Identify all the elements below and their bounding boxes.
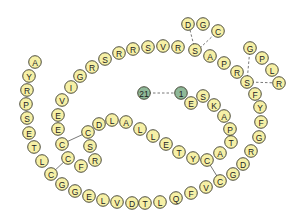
residue-label: G — [247, 44, 254, 54]
residue: S — [241, 76, 254, 89]
residue: L — [106, 114, 119, 127]
residue: A — [29, 56, 42, 69]
residue-label: A — [207, 52, 213, 62]
residue-label: A — [221, 112, 227, 122]
residue: T — [225, 136, 238, 149]
branch-right-residue: P — [256, 52, 269, 65]
residue-label: S — [24, 114, 30, 124]
residue: C — [214, 175, 227, 188]
residue: C — [56, 138, 69, 151]
residue: R — [231, 66, 244, 79]
residue-label: K — [211, 101, 217, 111]
residue-label: G — [230, 170, 237, 180]
residue-label: S — [145, 43, 151, 53]
residue-label: R — [24, 86, 30, 96]
residue-label: Y — [190, 154, 196, 164]
residue: R — [86, 61, 99, 74]
residue: I — [65, 81, 78, 94]
residue-label: D — [96, 120, 102, 130]
residue-label: E — [163, 140, 169, 150]
residue-label: T — [31, 143, 36, 153]
residue-label: F — [78, 162, 83, 172]
residue-label: L — [158, 198, 163, 208]
residue-label: C — [85, 128, 91, 138]
branch-top-residue: C — [212, 25, 225, 38]
residue: A — [120, 116, 133, 129]
residue: Y — [187, 152, 200, 165]
residue-label: D — [129, 199, 135, 209]
residue: A — [218, 110, 231, 123]
residue-label: R — [248, 147, 254, 157]
residue-label: Y — [257, 103, 263, 113]
residue: F — [255, 116, 268, 129]
residue-label: G — [59, 180, 66, 190]
residue: L — [134, 123, 147, 136]
residue-label: C — [48, 170, 54, 180]
residue: V — [157, 40, 170, 53]
residue-label: C — [204, 156, 210, 166]
residue: V — [56, 94, 69, 107]
branch-top-residue: G — [197, 18, 210, 31]
residue-label: C — [65, 154, 71, 164]
residue-label: L — [270, 66, 275, 76]
residue-label: E — [55, 125, 61, 135]
residue: R — [127, 43, 140, 56]
residue-label: C — [59, 140, 65, 150]
residue-label: S — [102, 55, 108, 65]
residue: R — [21, 84, 34, 97]
terminal-node: 1 — [175, 87, 188, 100]
residue: V — [111, 196, 124, 209]
residue: S — [189, 44, 202, 57]
residue: F — [249, 88, 262, 101]
residue: S — [142, 41, 155, 54]
residue-label: P — [227, 125, 233, 135]
branch-right-residue: L — [266, 64, 279, 77]
branch-right-residue: R — [273, 77, 286, 90]
branch-right-residue: G — [244, 42, 257, 55]
residue-label: E — [188, 99, 194, 109]
residue-label: A — [32, 58, 38, 68]
residue-label: F — [258, 118, 263, 128]
residue: L — [154, 196, 167, 209]
residue-label: G — [72, 187, 79, 197]
residue-label: R — [92, 156, 98, 166]
residue-label: R — [89, 63, 95, 73]
residue: R — [245, 145, 258, 158]
residue: A — [204, 50, 217, 63]
residue: E — [23, 127, 36, 140]
residue-label: L — [138, 125, 143, 135]
peptide-diagram: ESKAPTACYTELLALDCSRFCCEEVIGRSRRSVRSAPRSF… — [0, 0, 300, 222]
residue-label: C — [217, 177, 223, 187]
residue-label: A — [123, 118, 129, 128]
residue-label: L — [110, 116, 115, 126]
residue-label: C — [215, 27, 221, 37]
residue-label: V — [59, 96, 65, 106]
residue-label: I — [70, 83, 72, 93]
residue: E — [160, 138, 173, 151]
residue: C — [62, 152, 75, 165]
residue-label: G — [77, 72, 84, 82]
residue: E — [83, 190, 96, 203]
residue-label: R — [175, 43, 181, 53]
residue: C — [201, 154, 214, 167]
residue: Q — [170, 192, 183, 205]
residue: T — [28, 141, 41, 154]
residue-label: R — [276, 79, 282, 89]
residue-label: S — [244, 78, 250, 88]
residue-label: 1 — [179, 89, 184, 99]
residue-label: A — [217, 149, 223, 159]
residue: D — [126, 197, 139, 210]
residue: D — [237, 158, 250, 171]
residue: G — [253, 131, 266, 144]
residue: T — [173, 146, 186, 159]
residue-label: T — [228, 138, 233, 148]
residue: G — [227, 168, 240, 181]
residue: E — [185, 97, 198, 110]
residue-label: L — [151, 132, 156, 142]
residue-label: S — [200, 92, 206, 102]
residue: K — [208, 99, 221, 112]
residue: G — [69, 185, 82, 198]
residue: G — [74, 70, 87, 83]
residue: R — [172, 41, 185, 54]
residue-label: V — [114, 198, 120, 208]
